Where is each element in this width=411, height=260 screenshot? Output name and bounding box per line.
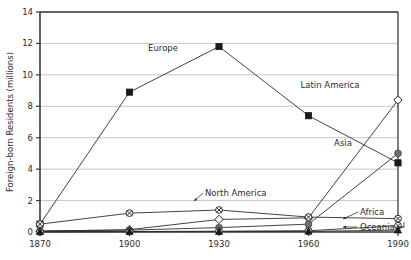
line-chart: 02468101214 18701900193019601990 Foreign… (0, 0, 411, 260)
y-tick-label: 8 (28, 101, 33, 111)
x-tick-labels: 18701900193019601990 (29, 239, 409, 249)
x-tick-label: 1870 (29, 239, 51, 249)
y-tick-label: 10 (22, 70, 33, 80)
series-label-oceania: Oceania (360, 222, 395, 232)
x-tick-label: 1990 (387, 239, 409, 249)
series-label-africa: Africa (360, 207, 384, 217)
y-tick-label: 14 (22, 7, 33, 17)
series-label-asia: Asia (334, 138, 352, 148)
y-tick-label: 2 (28, 196, 33, 206)
y-tick-label: 4 (28, 164, 33, 174)
series-label-latin-america: Latin America (301, 80, 360, 90)
y-tick-label: 6 (28, 133, 33, 143)
chart-container: 02468101214 18701900193019601990 Foreign… (0, 0, 411, 260)
series-label-europe: Europe (148, 43, 178, 53)
x-tick-label: 1960 (298, 239, 320, 249)
y-tick-label: 0 (28, 227, 33, 237)
y-tick-label: 12 (22, 38, 33, 48)
series-label-north-america: North America (205, 188, 267, 198)
y-axis-title: Foreign-born Residents (millions) (5, 52, 15, 192)
x-tick-label: 1930 (208, 239, 230, 249)
y-tick-labels: 02468101214 (22, 7, 33, 237)
x-tick-label: 1900 (119, 239, 141, 249)
